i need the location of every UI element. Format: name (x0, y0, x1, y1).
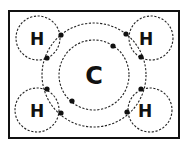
electron-bond-bottom-right-2 (124, 109, 129, 114)
hydrogen-label-bottom-right: H (138, 101, 152, 121)
methane-dot-diagram: C H H H H (0, 0, 188, 145)
electron-bond-top-left-2 (44, 55, 49, 60)
electron-bond-top-right-1 (123, 31, 128, 36)
electron-bond-bottom-left-2 (58, 110, 63, 115)
hydrogen-label-top-right: H (139, 29, 153, 49)
electron-bond-top-left-1 (58, 32, 63, 37)
hydrogen-label-top-left: H (30, 29, 44, 49)
hydrogen-label-bottom-left: H (30, 101, 44, 121)
electron-inner-2 (69, 98, 74, 103)
electron-bond-bottom-right-1 (138, 86, 143, 91)
electron-bond-bottom-left-1 (44, 86, 49, 91)
electron-inner-1 (110, 43, 115, 48)
carbon-label: C (85, 62, 103, 90)
electron-bond-top-right-2 (138, 54, 143, 59)
